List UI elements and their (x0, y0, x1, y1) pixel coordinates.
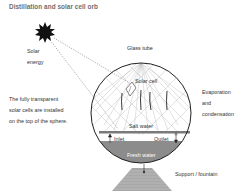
solar-cell-label: Solar cell (135, 79, 157, 84)
transparent-note-2: solar cells are installed (9, 108, 64, 113)
support-fountain (100, 164, 190, 191)
outlet-label: Outlet (154, 137, 168, 142)
evaporation-label-2: and (202, 101, 211, 106)
glass-tube-label: Glass tube (127, 46, 153, 51)
salt-water-label: Salt water (129, 124, 153, 129)
fresh-water-label: Fresh water (127, 153, 155, 158)
solar-energy-label-1: Solar (27, 49, 40, 54)
evaporation-label-1: Evaporation (202, 90, 231, 95)
inlet-label: Inlet (114, 137, 124, 142)
solar-energy-label-2: energy (27, 60, 43, 65)
sun-icon (35, 22, 55, 43)
transparent-note-3: on the top of the sphere. (9, 119, 67, 124)
evaporation-label-3: condensation (202, 112, 234, 117)
transparent-note-1: The fully transparent (9, 97, 58, 102)
support-label: Support / fountain (175, 172, 218, 177)
outlet-arrow-icon (175, 133, 178, 143)
